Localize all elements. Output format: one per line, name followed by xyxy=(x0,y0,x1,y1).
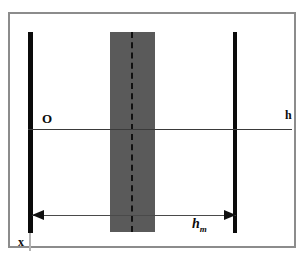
horizontal-h-axis-line xyxy=(28,129,292,130)
hm-subscript: m xyxy=(200,224,207,234)
hm-arrowhead-right-icon xyxy=(224,210,236,220)
hm-dimension-label: hm xyxy=(192,217,207,234)
left-wall-tail xyxy=(29,233,31,251)
left-wall-bar xyxy=(28,32,33,233)
x-axis-label: x xyxy=(18,236,24,248)
figure-frame: O hm xyxy=(8,12,296,248)
origin-label: O xyxy=(42,112,52,125)
right-wall-bar xyxy=(233,32,237,233)
hm-dimension-line xyxy=(32,215,236,216)
hm-symbol: h xyxy=(192,216,200,231)
band-center-dashed-line xyxy=(131,32,133,232)
hm-arrowhead-left-icon xyxy=(32,210,44,220)
figure-canvas: O hm h x xyxy=(0,0,306,260)
h-axis-label: h xyxy=(285,109,292,121)
